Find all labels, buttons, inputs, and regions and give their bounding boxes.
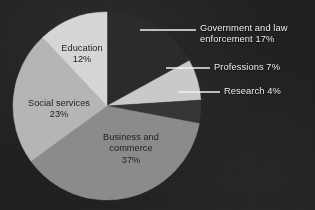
label-research: Research 4% xyxy=(224,86,314,97)
pie-chart-figure: Government and law enforcement 17% Profe… xyxy=(0,0,315,210)
label-professions: Professions 7% xyxy=(214,62,314,73)
label-government-and-law-enforcement: Government and law enforcement 17% xyxy=(200,23,315,46)
label-social-services: Social services 23% xyxy=(12,98,106,121)
label-business-and-commerce: Business and commerce 37% xyxy=(88,132,174,166)
label-education: Education 12% xyxy=(43,43,121,66)
